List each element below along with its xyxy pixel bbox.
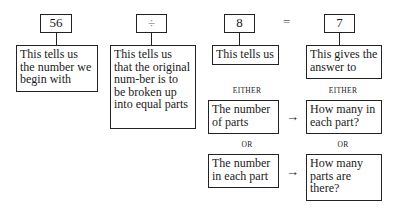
divisor-case-each-part: The number in each part <box>208 154 279 188</box>
operator-explanation: This tells us that the original num-ber … <box>110 45 196 129</box>
connector-line <box>151 33 152 45</box>
divisor-explanation: This tells us <box>212 45 279 65</box>
operator-box: ÷ <box>136 14 167 33</box>
either-label-left: EITHER <box>222 86 272 95</box>
or-label-right: OR <box>318 140 368 149</box>
dividend-explanation: This tells us the number we begin with <box>16 45 98 92</box>
quotient-case-each-part: How many in each part? <box>306 100 382 134</box>
connector-line <box>56 33 57 45</box>
quotient-box: 7 <box>324 14 355 33</box>
arrow-icon: → <box>286 110 299 123</box>
connector-line <box>239 33 240 45</box>
equals-sign: = <box>283 14 290 30</box>
divisor-box: 8 <box>224 14 255 33</box>
arrow-icon: → <box>286 165 299 178</box>
quotient-explanation: This gives the answer to <box>306 45 382 79</box>
divisor-case-parts: The number of parts <box>208 100 279 134</box>
connector-line <box>339 33 340 45</box>
dividend-box: 56 <box>40 14 72 33</box>
either-label-right: EITHER <box>318 86 368 95</box>
quotient-case-parts: How many parts are there? <box>306 154 382 201</box>
or-label-left: OR <box>222 140 272 149</box>
